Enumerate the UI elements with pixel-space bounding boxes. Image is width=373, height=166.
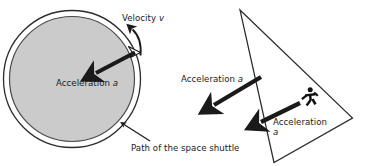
path-caption-leader-line [124, 125, 150, 142]
orbit-path-label: Path of the space shuttle [131, 143, 239, 153]
ramp-group [214, 10, 353, 163]
acceleration-label-ramp-left-symbol: a [238, 74, 243, 84]
acceleration-label-orbit-symbol: a [113, 78, 118, 88]
acceleration-label-orbit-text: Acceleration [56, 78, 113, 88]
acceleration-label-ramp-left-text: Acceleration [181, 74, 238, 84]
acceleration-label-ramp-right: Accelerationa [273, 117, 327, 137]
acceleration-label-ramp-right-text: Acceleration [273, 117, 327, 127]
acceleration-label-ramp-left: Acceleration a [181, 74, 243, 84]
velocity-label: Velocity v [122, 13, 164, 23]
orbit-path-label-text: Path of the space shuttle [131, 143, 239, 153]
acceleration-label-orbit: Acceleration a [56, 78, 118, 88]
acceleration-label-ramp-right-symbol: a [273, 127, 327, 137]
velocity-label-symbol: v [159, 13, 164, 23]
physics-diagram-figure: Velocity v Acceleration a Path of the sp… [0, 0, 373, 166]
velocity-label-text: Velocity [122, 13, 159, 23]
ramp-triangle-outline [240, 10, 353, 163]
